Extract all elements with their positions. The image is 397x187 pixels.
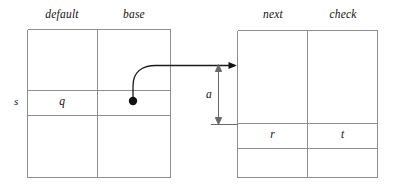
diagram-canvas: default base next check s q r t a xyxy=(0,0,397,187)
left-table-grid xyxy=(28,30,171,178)
right-table-grid xyxy=(238,31,378,178)
source-node-dot xyxy=(129,97,137,105)
offset-dimension xyxy=(211,65,238,125)
diagram-vector-layer xyxy=(0,0,397,187)
